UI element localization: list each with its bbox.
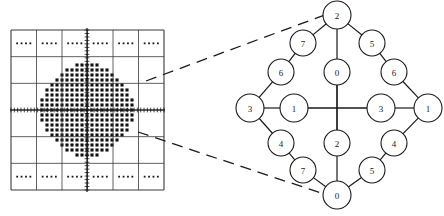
cluster-dot xyxy=(65,148,68,151)
cluster-dot xyxy=(90,148,93,151)
cluster-dot xyxy=(80,153,83,156)
cluster-dot xyxy=(105,98,108,101)
lattice-node-bottom: 0 xyxy=(323,181,351,209)
cluster-dot xyxy=(75,148,78,151)
sparse-dot xyxy=(42,42,44,44)
cluster-dot xyxy=(125,98,128,101)
cluster-dot xyxy=(95,138,98,141)
cluster-dot xyxy=(70,103,73,106)
cluster-dot xyxy=(100,73,103,76)
sparse-dot xyxy=(72,42,74,44)
cluster-dot xyxy=(95,63,98,66)
cluster-dot xyxy=(75,103,78,106)
node-label: 5 xyxy=(370,39,375,49)
cluster-dot xyxy=(105,118,108,121)
cluster-dot xyxy=(90,143,93,146)
sparse-dot xyxy=(16,42,18,44)
cluster-dot xyxy=(70,118,73,121)
cluster-dot xyxy=(45,128,48,131)
cluster-dot xyxy=(65,123,68,126)
cluster-dot xyxy=(100,113,103,116)
sparse-dot xyxy=(144,42,146,44)
cluster-dot xyxy=(105,148,108,151)
cluster-dot xyxy=(125,93,128,96)
cluster-dot xyxy=(55,138,58,141)
sparse-dot xyxy=(157,42,159,44)
cluster-dot xyxy=(115,103,118,106)
cluster-dot xyxy=(120,128,123,131)
node-label: 1 xyxy=(292,104,297,114)
cluster-dot xyxy=(95,143,98,146)
cluster-dot xyxy=(95,113,98,116)
cluster-dot xyxy=(75,88,78,91)
cluster-dot xyxy=(75,93,78,96)
cluster-dot xyxy=(90,113,93,116)
cluster-dot xyxy=(95,88,98,91)
cluster-dot xyxy=(115,83,118,86)
cluster-dot xyxy=(90,93,93,96)
sparse-dot xyxy=(21,176,23,178)
cluster-dot xyxy=(95,73,98,76)
cluster-dot xyxy=(65,118,68,121)
sparse-dot xyxy=(131,176,133,178)
cluster-dot xyxy=(50,88,53,91)
sparse-dot xyxy=(106,42,108,44)
cluster-dot xyxy=(45,103,48,106)
cluster-dot xyxy=(45,113,48,116)
cluster-dot xyxy=(40,98,43,101)
cluster-dot xyxy=(75,78,78,81)
sparse-dot xyxy=(148,42,150,44)
cluster-dot xyxy=(80,143,83,146)
cluster-dot xyxy=(55,128,58,131)
cluster-dot xyxy=(50,118,53,121)
cluster-dot xyxy=(90,88,93,91)
node-label: 1 xyxy=(426,104,431,114)
cluster-dot xyxy=(80,83,83,86)
lattice-edge xyxy=(347,23,362,35)
sparse-dot xyxy=(118,42,120,44)
cluster-dot xyxy=(70,98,73,101)
cluster-dot xyxy=(80,73,83,76)
cluster-dot xyxy=(115,133,118,136)
cluster-dot xyxy=(100,98,103,101)
sparse-dot xyxy=(148,176,150,178)
sparse-dot xyxy=(67,42,69,44)
cluster-dot xyxy=(90,98,93,101)
cluster-dot xyxy=(130,103,133,106)
cluster-dot xyxy=(50,93,53,96)
cluster-dot xyxy=(80,133,83,136)
lattice-node-up-right-5: 5 xyxy=(359,30,385,56)
cluster-dot xyxy=(80,148,83,151)
cluster-dot xyxy=(90,73,93,76)
lattice-node-up-left-6: 6 xyxy=(268,59,294,85)
cluster-dot xyxy=(70,128,73,131)
cluster-dot xyxy=(95,93,98,96)
cluster-dot xyxy=(105,93,108,96)
cluster-dot xyxy=(90,128,93,131)
sparse-dot xyxy=(127,176,129,178)
sparse-dot xyxy=(80,42,82,44)
cluster-dot xyxy=(95,128,98,131)
cluster-dot xyxy=(90,78,93,81)
lattice-edge xyxy=(348,177,363,187)
lattice-edge xyxy=(258,81,273,98)
sparse-dot xyxy=(76,176,78,178)
cluster-dot xyxy=(80,88,83,91)
cluster-dot xyxy=(90,153,93,156)
cluster-dot xyxy=(45,98,48,101)
cluster-dot xyxy=(95,68,98,71)
node-label: 2 xyxy=(335,11,340,21)
cluster-dot xyxy=(100,128,103,131)
sparse-dot xyxy=(80,176,82,178)
node-label: 4 xyxy=(392,139,397,149)
cluster-dot xyxy=(80,113,83,116)
sparse-dot xyxy=(106,176,108,178)
cluster-dot xyxy=(90,138,93,141)
cluster-dot xyxy=(120,98,123,101)
lattice-edge xyxy=(379,53,387,63)
cluster-dot xyxy=(70,68,73,71)
lattice-node-up-mid-0: 0 xyxy=(324,59,350,85)
cluster-dot xyxy=(100,93,103,96)
cluster-dot xyxy=(70,88,73,91)
lattice-edge xyxy=(259,118,273,134)
